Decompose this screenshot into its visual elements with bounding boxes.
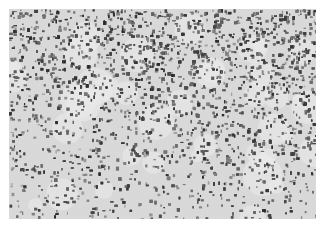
- micrograph-canvas: [9, 9, 316, 219]
- micrograph-image: [9, 9, 316, 219]
